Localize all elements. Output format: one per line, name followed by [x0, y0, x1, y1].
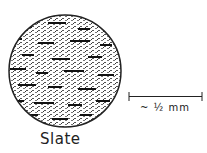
scale-bar-label: ~ ½ mm — [140, 102, 190, 113]
specimen-label: Slate — [40, 130, 81, 148]
scale-bar — [128, 92, 203, 101]
slate-thin-section — [8, 14, 122, 128]
